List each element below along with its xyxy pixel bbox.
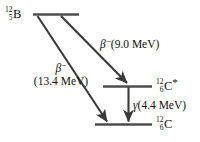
atomic-number-c12-excited: 6 [156, 86, 164, 94]
element-symbol-c12-ground: C [164, 118, 172, 131]
excited-state-marker: * [172, 77, 178, 88]
beta-particle-line-left: β− [20, 62, 102, 75]
nuclide-label-c12-excited: 12 6 C* [156, 78, 178, 94]
beta-charge-sign-left: − [61, 60, 66, 70]
beta-energy-left: (13.4 MeV) [20, 75, 102, 88]
beta-energy-right: (9.0 MeV) [111, 38, 160, 50]
nuclide-indices-c12-ground: 12 6 [156, 116, 164, 132]
nuclide-label-b12: 12 5 B [5, 6, 21, 22]
gamma-4-4mev-label: γ(4.4 MeV) [133, 99, 186, 112]
nuclide-indices-c12-excited: 12 6 [156, 78, 164, 94]
nuclide-label-c12-ground: 12 6 C [156, 116, 172, 132]
beta-minus-13-4mev-label: β− (13.4 MeV) [20, 62, 102, 88]
beta-charge-sign-right: − [106, 36, 111, 46]
beta-particle-glyph-right: β [100, 38, 106, 50]
gamma-energy: (4.4 MeV) [138, 99, 187, 111]
decay-scheme-figure: 12 5 B 12 6 C* 12 6 C β−(9.0 MeV) β− (13… [0, 0, 200, 142]
beta-minus-9mev-label: β−(9.0 MeV) [100, 38, 159, 51]
nuclide-indices-b12: 12 5 [5, 6, 13, 22]
atomic-number-b12: 5 [5, 14, 13, 22]
atomic-number-c12-ground: 6 [156, 124, 164, 132]
element-symbol-c12-excited: C [164, 80, 172, 93]
element-symbol-b12: B [13, 8, 21, 21]
